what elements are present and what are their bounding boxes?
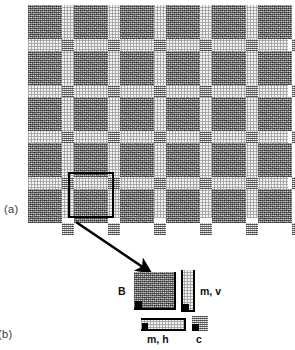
mortar-v-right-edge [193, 270, 195, 312]
mortar-h-bottom-edge [141, 329, 186, 331]
legend-swatch-cross-joint [192, 316, 208, 331]
mortar-h-right-edge [184, 318, 186, 331]
legend-swatch-brick [134, 272, 176, 310]
figure-root: (a) B m, v [0, 0, 295, 350]
cross-corner-marker [192, 324, 199, 331]
legend-label-brick: B [118, 285, 126, 297]
mortar-v-corner-marker [183, 304, 189, 310]
mortar-h-top-edge [141, 318, 186, 320]
legend-label-mortar-horizontal: m, h [147, 333, 169, 345]
legend-label-mortar-vertical: m, v [200, 285, 221, 297]
legend-swatch-mortar-horizontal [141, 318, 186, 331]
constituents-legend-panel: B m, v m, h c [0, 0, 295, 350]
legend-swatch-mortar-vertical [181, 270, 195, 312]
mortar-h-corner-marker [142, 323, 148, 329]
legend-label-cross-joint: c [196, 333, 202, 345]
brick-right-edge [174, 272, 177, 310]
mortar-v-bottom-edge [181, 310, 195, 312]
brick-bottom-edge [134, 308, 176, 311]
brick-corner-marker [135, 301, 142, 308]
panel-label-b: (b) [0, 328, 12, 340]
